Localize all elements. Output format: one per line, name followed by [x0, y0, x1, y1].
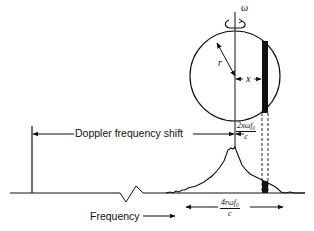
- offset-label: x: [246, 74, 250, 84]
- stripe-spectrum: [262, 181, 268, 193]
- doppler-diagram: [0, 0, 314, 231]
- spectrum-curve: [166, 147, 305, 193]
- shift-fraction: 2xωf₀ c: [236, 122, 256, 141]
- rotating-disc: [190, 12, 280, 148]
- frequency-label: Frequency: [89, 211, 141, 222]
- bandwidth-fraction: 4rωf₀ c: [220, 199, 240, 218]
- doppler-shift-label: Doppler frequency shift: [74, 128, 184, 139]
- radius-label: r: [218, 58, 222, 68]
- frequency-baseline: [10, 186, 166, 202]
- omega-label: ω: [241, 3, 248, 13]
- stripe: [262, 41, 268, 113]
